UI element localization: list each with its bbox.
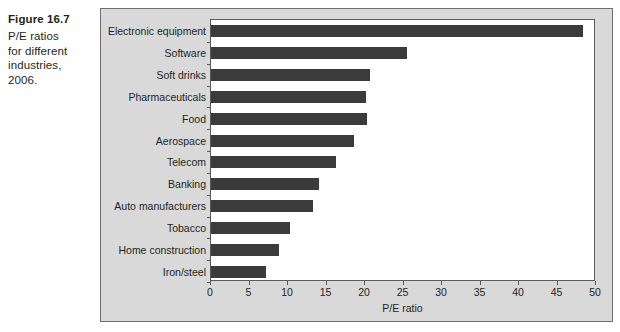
figure-caption: Figure 16.7 P/E ratiosfor differentindus… [8, 12, 94, 87]
bar-row: Banking [211, 173, 594, 195]
x-axis-tick [595, 281, 596, 285]
x-axis: P/E ratio 05101520253035404550 [210, 281, 595, 321]
x-axis-tick-label: 25 [397, 286, 409, 298]
category-label: Aerospace [156, 135, 211, 147]
bar-row: Home construction [211, 239, 594, 261]
x-axis-tick-label: 20 [358, 286, 370, 298]
bar [211, 25, 583, 37]
x-axis-tick [441, 281, 442, 285]
category-label: Electronic equipment [108, 25, 211, 37]
bar-row: Soft drinks [211, 64, 594, 86]
bar-row: Iron/steel [211, 261, 594, 283]
bar-row: Tobacco [211, 217, 594, 239]
bar-row: Electronic equipment [211, 21, 594, 43]
category-label: Soft drinks [156, 69, 211, 81]
x-axis-tick [557, 281, 558, 285]
figure-number: Figure 16.7 [8, 12, 94, 26]
bar-row: Software [211, 42, 594, 64]
x-axis-tick-label: 30 [435, 286, 447, 298]
x-axis-tick [364, 281, 365, 285]
category-label: Software [165, 47, 211, 59]
bar-row: Aerospace [211, 130, 594, 152]
category-label: Pharmaceuticals [128, 91, 211, 103]
x-axis-tick-label: 0 [207, 286, 213, 298]
bar-row: Pharmaceuticals [211, 86, 594, 108]
bar [211, 91, 366, 103]
category-label: Iron/steel [163, 266, 211, 278]
category-label: Telecom [167, 156, 211, 168]
plot-area: Electronic equipmentSoftwareSoft drinksP… [210, 19, 595, 281]
bar [211, 178, 319, 190]
x-axis-title: P/E ratio [210, 302, 595, 314]
x-axis-tick-label: 45 [551, 286, 563, 298]
chart-panel: Electronic equipmentSoftwareSoft drinksP… [100, 8, 613, 322]
x-axis-tick-label: 5 [246, 286, 252, 298]
x-axis-tick [403, 281, 404, 285]
x-axis-tick [249, 281, 250, 285]
x-axis-tick-label: 15 [320, 286, 332, 298]
x-axis-tick [480, 281, 481, 285]
x-axis-tick [518, 281, 519, 285]
x-axis-tick [287, 281, 288, 285]
x-axis-tick-label: 40 [512, 286, 524, 298]
x-axis-tick-label: 50 [589, 286, 601, 298]
bar [211, 156, 336, 168]
bar [211, 135, 354, 147]
bar [211, 266, 266, 278]
x-axis-tick-label: 35 [474, 286, 486, 298]
bars-container: Electronic equipmentSoftwareSoft drinksP… [211, 20, 594, 280]
bar [211, 113, 367, 125]
bar [211, 47, 407, 59]
category-label: Auto manufacturers [114, 200, 211, 212]
bar-row: Food [211, 108, 594, 130]
figure-description: P/E ratiosfor differentindustries, 2006. [8, 29, 94, 87]
x-axis-tick-label: 10 [281, 286, 293, 298]
x-axis-tick [326, 281, 327, 285]
bar-row: Auto manufacturers [211, 195, 594, 217]
x-axis-tick [210, 281, 211, 285]
category-label: Tobacco [167, 222, 211, 234]
bar [211, 69, 370, 81]
category-label: Home construction [118, 244, 211, 256]
bar [211, 244, 279, 256]
bar [211, 222, 290, 234]
bar [211, 200, 313, 212]
category-label: Banking [168, 178, 211, 190]
category-label: Food [182, 113, 211, 125]
bar-row: Telecom [211, 152, 594, 174]
